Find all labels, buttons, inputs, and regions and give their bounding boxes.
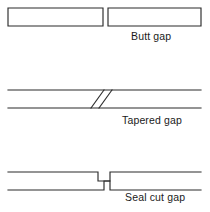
seal-cut-gap-label: Seal cut gap — [125, 191, 185, 203]
butt-gap-left-bar — [8, 8, 103, 26]
seal-cut-gap-diagram — [8, 172, 201, 190]
tapered-gap-label: Tapered gap — [122, 114, 182, 126]
butt-gap-right-bar — [108, 8, 201, 26]
butt-gap-diagram — [8, 8, 201, 26]
tapered-gap-scarf-line-right — [99, 90, 112, 108]
seal-cut-gap-bottom-profile — [8, 181, 201, 190]
butt-gap-label: Butt gap — [131, 30, 171, 42]
gap-types-figure: Butt gap Tapered gap Seal cut gap — [0, 0, 210, 212]
tapered-gap-diagram — [8, 90, 201, 108]
tapered-gap-scarf-line-left — [91, 90, 104, 108]
diagram-canvas — [0, 0, 210, 212]
seal-cut-gap-top-profile — [8, 172, 201, 181]
